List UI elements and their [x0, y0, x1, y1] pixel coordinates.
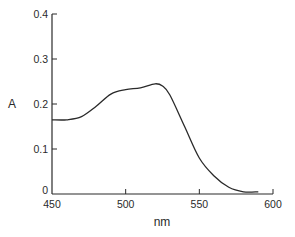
data-series	[52, 84, 258, 192]
x-tick-label: 600	[264, 198, 282, 210]
x-tick-label: 500	[117, 198, 135, 210]
x-tick-label: 550	[191, 198, 209, 210]
y-tick-label: 0	[42, 184, 48, 196]
x-axis-label: nm	[154, 215, 171, 229]
x-tick-label: 450	[43, 198, 61, 210]
absorbance-chart: 00.10.20.30.4450500550600 nm A	[0, 0, 295, 237]
y-tick-label: 0.2	[33, 98, 48, 110]
y-tick-label: 0.4	[33, 8, 48, 20]
y-axis-label: A	[8, 97, 16, 111]
y-tick-label: 0.3	[33, 53, 48, 65]
y-tick-label: 0.1	[33, 143, 48, 155]
ticks: 00.10.20.30.4450500550600	[33, 8, 282, 210]
spectrum-line	[52, 84, 258, 192]
axes	[52, 14, 273, 194]
